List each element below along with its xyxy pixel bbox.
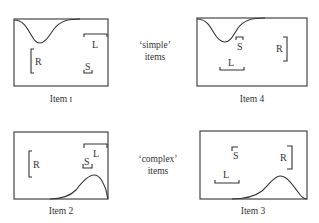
item-4-R-bracket [283,37,287,61]
item-1-panel [14,19,108,86]
item-3-L-label: L [223,169,229,180]
item-1-R-bracket [31,49,34,73]
item-4-S-label: S [237,41,243,52]
item-2-caption: Item 2 [49,206,74,216]
item-4-S-bracket [236,37,243,40]
item-2-frame [14,132,108,199]
item-1-L-label: L [92,39,98,50]
simple-items-label-line2: items [145,52,166,62]
diagram-canvas: R L S S L R R L S S L R Item ɪ Item 4 It… [0,0,319,223]
item-1-S-label: S [85,61,91,72]
item-3-R-bracket [287,146,292,169]
item-4-trough-curve [197,18,265,42]
item-1-caption: Item ɪ [50,94,73,104]
item-3-S-label: S [233,150,239,161]
simple-items-label-line1: ‘simple’ [139,40,171,50]
item-3-caption: Item 3 [241,206,266,216]
item-4-R-label: R [276,43,283,54]
complex-items-label-line2: items [148,166,169,176]
item-4-frame [197,18,307,86]
item-2-panel [14,132,108,199]
item-3-hump-curve [232,176,307,199]
item-2-R-label: R [33,159,40,170]
complex-items-label-line1: ‘complex’ [138,154,177,164]
item-2-L-label: L [93,148,99,159]
item-2-S-label: S [84,156,90,167]
item-1-L-bracket [84,34,107,37]
item-2-hump-curve [50,175,108,199]
item-1-trough-curve [14,19,80,43]
item-4-panel [197,18,307,86]
item-3-L-bracket [215,180,239,183]
item-3-R-label: R [280,152,287,163]
item-3-frame [200,131,307,199]
item-2-R-bracket [29,151,32,177]
item-1-R-label: R [35,56,42,67]
item-3-panel [200,131,307,199]
item-4-caption: Item 4 [240,94,265,104]
item-4-L-label: L [228,57,234,68]
